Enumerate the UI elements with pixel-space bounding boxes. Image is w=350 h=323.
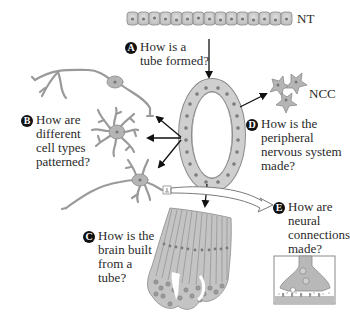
question-e-line-1: How are	[288, 199, 332, 214]
arrow-to-ncc	[240, 94, 266, 107]
question-c-line-2: brain built	[83, 243, 154, 257]
question-b-line-4: patterned?	[21, 155, 90, 169]
question-e-line-4: made?	[273, 242, 350, 256]
badge-c: C	[83, 231, 95, 243]
neural-plate-cells	[127, 12, 292, 25]
neural-tube	[185, 85, 240, 185]
ncc-label: NCC	[309, 87, 336, 101]
arrow-to-synapse	[171, 187, 273, 212]
question-a-line-1: How is a	[140, 39, 186, 54]
question-e-line-3: connections	[273, 228, 350, 242]
question-d-line-1: How is the	[261, 116, 317, 131]
question-e: EHow are neural connections made?	[273, 200, 350, 256]
neuron-top	[32, 70, 153, 116]
badge-e: E	[273, 202, 285, 214]
question-c: CHow is the brain built from a tube?	[83, 229, 154, 285]
question-d-line-4: made?	[246, 159, 342, 173]
arrow-to-neuron-top	[157, 117, 181, 137]
question-b: BHow are different cell types patterned?	[21, 113, 90, 169]
question-a-line-2: tube formed?	[125, 54, 209, 68]
badge-d: D	[246, 119, 258, 131]
cortex-section	[148, 208, 232, 309]
badge-a: A	[125, 42, 137, 54]
question-d-line-2: peripheral	[246, 131, 342, 145]
question-c-line-3: from a	[83, 257, 154, 271]
astrocyte	[92, 108, 138, 156]
nt-label: NT	[297, 12, 314, 26]
question-c-line-4: tube?	[83, 271, 154, 285]
arrow-to-neuron-bottom	[159, 140, 181, 167]
question-e-line-2: neural	[273, 214, 350, 228]
question-d-line-3: nervous system	[246, 145, 342, 159]
question-b-line-1: How are	[36, 112, 80, 127]
question-b-line-3: cell types	[21, 141, 90, 155]
question-d: DHow is the peripheral nervous system ma…	[246, 117, 342, 173]
question-c-line-1: How is the	[98, 228, 154, 243]
neural-crest-cells	[270, 73, 307, 113]
badge-b: B	[21, 115, 33, 127]
synapse-inset	[274, 256, 335, 304]
question-a: AHow is a tube formed?	[125, 40, 209, 68]
question-b-line-2: different	[21, 127, 90, 141]
